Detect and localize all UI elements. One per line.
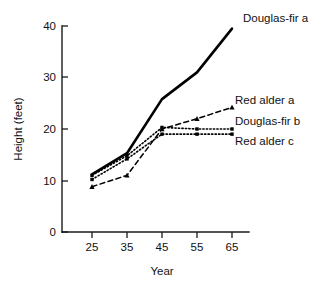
y-tick-label-0: 0 [50,226,56,238]
data-point [195,127,198,130]
data-point [90,174,93,177]
data-point [230,127,233,130]
y-tick-label-10: 10 [43,175,56,187]
series-label-douglas-fir-b: Douglas-fir b [235,115,300,127]
line-chart: 40 30 20 10 0 25 35 45 55 65 Year Height… [0,0,320,284]
series-label-douglas-fir-a: Douglas-fir a [243,12,309,24]
data-point [195,132,198,135]
x-axis-title: Year [150,265,173,277]
data-point [125,157,128,160]
data-point [230,132,233,135]
y-axis-title: Height (feet) [12,97,24,160]
data-point [90,178,93,181]
data-point [160,132,163,135]
data-point [125,154,128,157]
series-label-red-alder-c: Red alder c [235,135,294,147]
y-tick-label-40: 40 [43,20,56,32]
series-label-red-alder-a: Red alder a [235,94,295,106]
x-tick-label-35: 35 [121,241,134,253]
x-tick-label-55: 55 [191,241,204,253]
x-tick-label-25: 25 [86,241,99,253]
chart-container: 40 30 20 10 0 25 35 45 55 65 Year Height… [0,0,320,284]
x-tick-label-45: 45 [156,241,169,253]
y-tick-label-30: 30 [43,71,56,83]
x-tick-label-65: 65 [226,241,239,253]
y-tick-label-20: 20 [43,123,56,135]
